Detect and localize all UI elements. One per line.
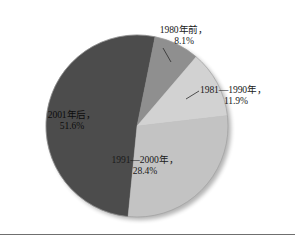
pie-chart-figure: 1980年前， 8.1% 1981—1990年， 11.9% 1991—2000… <box>0 0 295 237</box>
pie-label-pre1980-value: 8.1% <box>146 36 222 47</box>
pie-label-1991-2000: 1991—2000年， 28.4% <box>96 155 194 176</box>
bottom-divider <box>0 234 295 235</box>
pie-label-post2001: 2001年后， 51.6% <box>32 110 112 131</box>
pie-label-1991-2000-value: 28.4% <box>96 166 194 177</box>
pie-label-pre1980: 1980年前， 8.1% <box>146 25 222 46</box>
pie-label-1981-1990: 1981—1990年， 11.9% <box>200 85 294 106</box>
pie-label-1981-1990-value: 11.9% <box>200 96 294 107</box>
pie-label-post2001-value: 51.6% <box>32 121 112 132</box>
